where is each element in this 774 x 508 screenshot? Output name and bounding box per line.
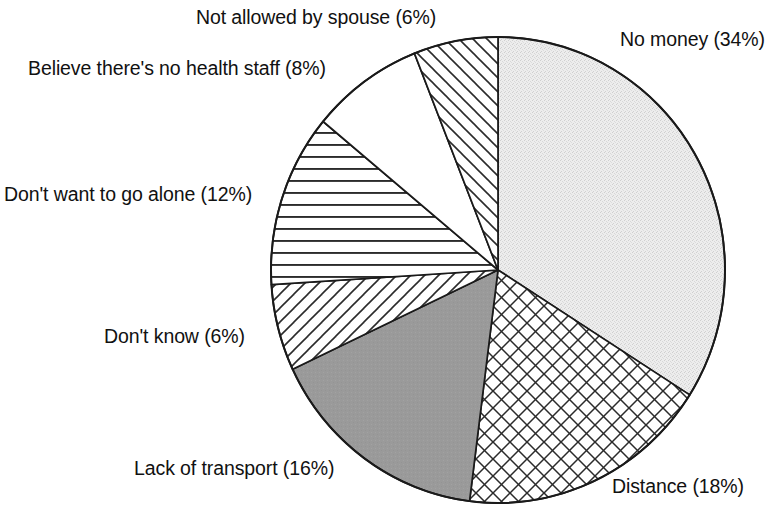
slice-label-no-money: No money (34%) bbox=[620, 28, 765, 50]
pie-slices-group bbox=[271, 37, 725, 503]
slice-label-not-allowed-by-spouse: Not allowed by spouse (6%) bbox=[196, 6, 436, 28]
slice-label-dont-want-to-go-alone: Don't want to go alone (12%) bbox=[4, 183, 252, 205]
slice-label-lack-of-transport: Lack of transport (16%) bbox=[134, 457, 334, 479]
slice-label-dont-know: Don't know (6%) bbox=[104, 325, 245, 347]
slice-label-believe-no-health-staff: Believe there's no health staff (8%) bbox=[28, 57, 326, 79]
pie-chart-figure: No money (34%) Distance (18%) Lack of tr… bbox=[0, 0, 774, 508]
slice-label-distance: Distance (18%) bbox=[612, 475, 744, 497]
